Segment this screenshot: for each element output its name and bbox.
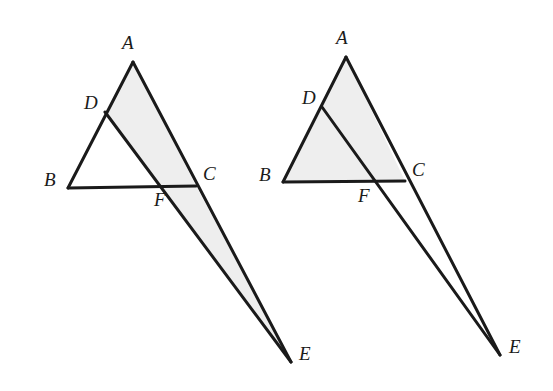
left-label-E: E xyxy=(299,344,311,363)
left-segment-AE xyxy=(133,62,291,362)
left-diagram xyxy=(68,62,291,362)
left-label-F: F xyxy=(154,190,166,209)
right-label-C: C xyxy=(412,160,425,179)
right-label-F: F xyxy=(358,186,370,205)
left-label-A: A xyxy=(122,33,134,52)
right-label-A: A xyxy=(336,28,348,47)
left-segment-DE xyxy=(105,112,291,362)
geometry-canvas xyxy=(0,0,553,391)
right-segment-BC xyxy=(283,181,405,182)
left-label-D: D xyxy=(84,93,98,112)
right-shaded-region-ABC xyxy=(283,57,405,182)
right-segment-DE xyxy=(322,107,500,355)
left-segment-BC xyxy=(68,186,196,188)
left-label-C: C xyxy=(203,164,216,183)
left-shaded-region-ADEC xyxy=(105,62,291,362)
right-label-D: D xyxy=(302,88,316,107)
right-label-E: E xyxy=(509,337,521,356)
right-label-B: B xyxy=(259,165,271,184)
geometry-figure: A B C D E F A B C D E F xyxy=(0,0,553,391)
right-segment-AE xyxy=(346,57,500,355)
left-label-B: B xyxy=(44,170,56,189)
